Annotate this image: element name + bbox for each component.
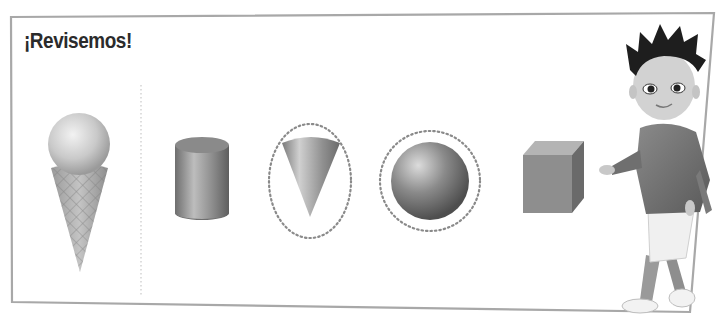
page-title: ¡Revisemos!	[24, 28, 132, 54]
cube-shape[interactable]	[523, 141, 584, 213]
ice-cream-cone-image	[48, 113, 110, 272]
cone-shape[interactable]	[269, 124, 351, 238]
boy-character	[599, 24, 712, 313]
review-panel: ¡Revisemos!	[0, 0, 724, 320]
sphere-shape[interactable]	[380, 131, 480, 231]
cylinder-shape[interactable]	[175, 137, 229, 220]
